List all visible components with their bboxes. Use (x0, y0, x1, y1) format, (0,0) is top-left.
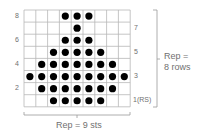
stitch-dot (109, 73, 116, 80)
stitch-dot (74, 73, 81, 80)
row-label-4: 4 (9, 60, 19, 68)
stitch-dot (50, 85, 57, 92)
stitch-dot (97, 73, 104, 80)
stitch-dot (74, 85, 81, 92)
stitch-dot (62, 37, 69, 44)
stitch-dot (85, 85, 92, 92)
stitch-dot (97, 49, 104, 56)
row-label-5: 5 (134, 48, 138, 56)
stitch-repeat-label: Rep = 9 sts (56, 120, 102, 131)
stitch-dot (50, 61, 57, 68)
row-label-8: 8 (9, 12, 19, 20)
stitch-dot (74, 25, 81, 32)
stitch-dot (62, 12, 69, 19)
stitch-dot (74, 61, 81, 68)
stitch-dot (85, 37, 92, 44)
row-repeat-bracket (153, 10, 160, 107)
stitch-dot (26, 73, 33, 80)
stitch-dot (97, 85, 104, 92)
stitch-dot (85, 12, 92, 19)
row-label-7: 7 (134, 24, 138, 32)
stitch-dot (50, 97, 57, 104)
stitch-dot (62, 61, 69, 68)
stitch-dot (62, 97, 69, 104)
stitch-dot (50, 49, 57, 56)
stitch-dot (38, 85, 45, 92)
stitch-dot (38, 73, 45, 80)
stitch-dot (85, 97, 92, 104)
stitch-dot (38, 61, 45, 68)
stitch-dot (74, 49, 81, 56)
stitch-dot (85, 61, 92, 68)
stitch-dot (74, 37, 81, 44)
stitch-dot (50, 73, 57, 80)
stitch-dot (62, 85, 69, 92)
stitch-dot (97, 61, 104, 68)
stitch-repeat-bracket (24, 112, 130, 118)
row-label-1-rs: 1(RS) (133, 96, 151, 104)
stitch-dot (109, 61, 116, 68)
stitch-dot (74, 12, 81, 19)
row-label-6: 6 (9, 36, 19, 44)
stitch-dot (109, 85, 116, 92)
stitch-dot (85, 73, 92, 80)
stitch-dot (85, 49, 92, 56)
stitch-dot (74, 97, 81, 104)
row-repeat-label-line2: 8 rows (164, 62, 191, 73)
row-label-3: 3 (134, 72, 138, 80)
row-label-2: 2 (9, 84, 19, 92)
row-repeat-label-line1: Rep = (164, 51, 188, 62)
chart-grid (24, 10, 130, 107)
stitch-dot (121, 73, 128, 80)
stitch-dot (97, 97, 104, 104)
stitch-dot (62, 49, 69, 56)
stitch-dot (62, 73, 69, 80)
